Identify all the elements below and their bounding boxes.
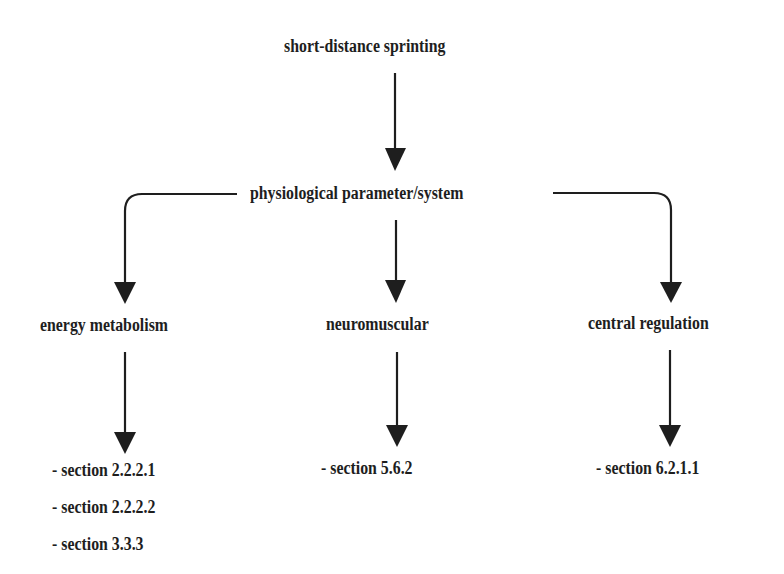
arrowhead-icon bbox=[114, 282, 136, 304]
section-ref: - section 6.2.1.1 bbox=[596, 459, 699, 477]
section-ref: - section 2.2.2.1 bbox=[52, 461, 155, 479]
arrowhead-icon bbox=[385, 148, 406, 171]
arrowhead-icon bbox=[660, 282, 682, 303]
node-neuromuscular: neuromuscular bbox=[326, 315, 429, 333]
arrowhead-icon bbox=[659, 425, 681, 447]
arrowhead-icon bbox=[386, 425, 408, 447]
diagram-edges bbox=[0, 0, 784, 574]
section-ref: - section 2.2.2.2 bbox=[52, 498, 155, 516]
node-central-regulation: central regulation bbox=[588, 314, 709, 332]
arrowhead-icon bbox=[385, 280, 406, 303]
node-physiological-parameter: physiological parameter/system bbox=[250, 184, 463, 202]
arrow-parameter-to-energy-metabolism bbox=[125, 194, 237, 284]
diagram-canvas: short-distance sprinting physiological p… bbox=[0, 0, 784, 574]
node-root: short-distance sprinting bbox=[284, 37, 445, 55]
section-ref: - section 5.6.2 bbox=[321, 459, 413, 477]
node-energy-metabolism: energy metabolism bbox=[40, 316, 168, 334]
arrow-parameter-to-central-regulation bbox=[553, 193, 671, 284]
section-ref: - section 3.3.3 bbox=[52, 535, 144, 553]
arrowhead-icon bbox=[114, 432, 136, 454]
